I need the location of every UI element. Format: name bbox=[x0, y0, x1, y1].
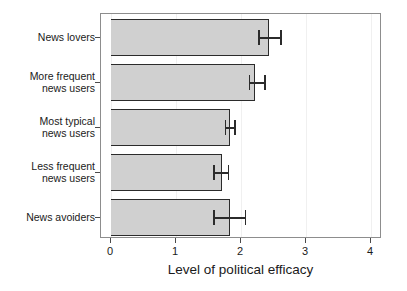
error-bar bbox=[225, 120, 236, 135]
error-bar-cap-low bbox=[213, 165, 215, 180]
x-axis-tick-mark bbox=[305, 238, 306, 243]
y-axis-tick-label: Less frequent news users bbox=[0, 160, 95, 184]
y-axis-tick-mark bbox=[95, 37, 100, 38]
error-bar-cap-high bbox=[228, 165, 230, 180]
error-bar bbox=[249, 75, 266, 90]
bar bbox=[111, 19, 269, 56]
y-axis-tick-label: News avoiders bbox=[0, 211, 95, 223]
y-axis-tick-mark bbox=[95, 127, 100, 128]
plot-area bbox=[100, 13, 381, 238]
bar bbox=[111, 109, 230, 146]
error-bar-cap-high bbox=[264, 75, 266, 90]
error-bar-cap-low bbox=[249, 75, 251, 90]
error-bar-cap-high bbox=[280, 30, 282, 45]
x-axis-title: Level of political efficacy bbox=[100, 262, 381, 277]
bar-row bbox=[101, 154, 381, 191]
x-axis-tick-label: 0 bbox=[98, 245, 122, 257]
x-axis-tick-label: 3 bbox=[293, 245, 317, 257]
error-bar-line bbox=[213, 217, 246, 219]
x-axis-tick-mark bbox=[240, 238, 241, 243]
bar-row bbox=[101, 19, 381, 56]
x-axis-tick-label: 4 bbox=[358, 245, 382, 257]
error-bar-cap-high bbox=[245, 210, 247, 225]
y-axis-tick-label: More frequent news users bbox=[0, 70, 95, 94]
error-bar bbox=[213, 210, 246, 225]
error-bar-cap-low bbox=[258, 30, 260, 45]
error-bar-cap-low bbox=[225, 120, 227, 135]
x-axis-tick-label: 1 bbox=[163, 245, 187, 257]
bar bbox=[111, 154, 222, 191]
y-axis-tick-label: News lovers bbox=[0, 31, 95, 43]
bar-row bbox=[101, 199, 381, 236]
x-axis-tick-mark bbox=[175, 238, 176, 243]
error-bar-cap-low bbox=[213, 210, 215, 225]
y-axis-tick-mark bbox=[95, 172, 100, 173]
chart-figure: News loversMore frequent news usersMost … bbox=[0, 0, 407, 291]
error-bar bbox=[258, 30, 282, 45]
y-axis-tick-mark bbox=[95, 217, 100, 218]
x-axis-tick-mark bbox=[370, 238, 371, 243]
bar-row bbox=[101, 64, 381, 101]
y-axis-tick-mark bbox=[95, 82, 100, 83]
x-axis-tick-mark bbox=[110, 238, 111, 243]
error-bar bbox=[213, 165, 229, 180]
error-bar-cap-high bbox=[234, 120, 236, 135]
bar-row bbox=[101, 109, 381, 146]
error-bar-line bbox=[258, 37, 282, 39]
x-axis-tick-label: 2 bbox=[228, 245, 252, 257]
y-axis-tick-label: Most typical news users bbox=[0, 115, 95, 139]
bar bbox=[111, 64, 255, 101]
